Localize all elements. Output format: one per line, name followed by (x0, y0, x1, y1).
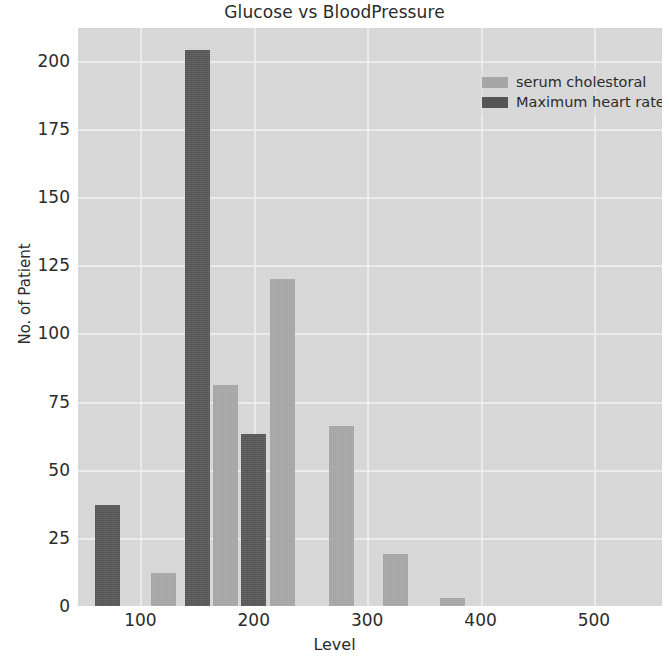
bar-series-1-x-200 (241, 434, 266, 606)
chart-title: Glucose vs BloodPressure (0, 2, 669, 22)
x-axis-label: Level (0, 635, 669, 654)
y-tick-label-75: 75 (8, 392, 70, 412)
legend-label-series-1: Maximum heart rate achieved (516, 94, 662, 110)
x-tick-label-400: 400 (446, 610, 516, 630)
bar-series-1-x-71 (95, 505, 120, 606)
y-tick-label-175: 175 (8, 119, 70, 139)
legend-label-series-0: serum cholestoral (516, 74, 646, 90)
gridline-y-100 (78, 333, 662, 335)
gridline-x-300 (367, 28, 369, 606)
gridline-y-25 (78, 538, 662, 540)
x-tick-label-200: 200 (219, 610, 289, 630)
y-tick-label-200: 200 (8, 51, 70, 71)
bar-series-1-x-150 (185, 50, 210, 606)
legend: serum cholestoral Maximum heart rate ach… (478, 68, 662, 116)
y-tick-label-0: 0 (8, 596, 70, 616)
bar-series-0-x-375 (440, 598, 465, 606)
gridline-x-100 (140, 28, 142, 606)
bar-series-0-x-120 (151, 573, 176, 606)
bar-series-0-x-175 (213, 385, 238, 606)
gridline-y-200 (78, 61, 662, 63)
gridline-y-125 (78, 265, 662, 267)
y-axis-label: No. of Patient (16, 194, 34, 394)
y-tick-label-50: 50 (8, 460, 70, 480)
x-tick-label-500: 500 (559, 610, 629, 630)
bar-series-0-x-325 (383, 554, 408, 606)
plot-area: serum cholestoral Maximum heart rate ach… (78, 28, 662, 606)
chart-page: Glucose vs BloodPressure serum cholestor… (0, 0, 669, 669)
gridline-y-175 (78, 129, 662, 131)
legend-swatch-icon-series-1 (482, 97, 508, 108)
gridline-y-50 (78, 470, 662, 472)
legend-item-maximum-heart-rate-achieved: Maximum heart rate achieved (482, 92, 662, 112)
gridline-y-150 (78, 197, 662, 199)
legend-swatch-icon-series-0 (482, 77, 508, 88)
x-tick-label-300: 300 (332, 610, 402, 630)
y-tick-label-25: 25 (8, 528, 70, 548)
legend-item-serum-cholestoral: serum cholestoral (482, 72, 662, 92)
gridline-y-75 (78, 402, 662, 404)
y-axis-ticks: 0255075100125150175200 (0, 0, 70, 669)
x-tick-label-100: 100 (105, 610, 175, 630)
bar-series-0-x-277 (329, 426, 354, 606)
bar-series-0-x-225 (270, 279, 295, 606)
